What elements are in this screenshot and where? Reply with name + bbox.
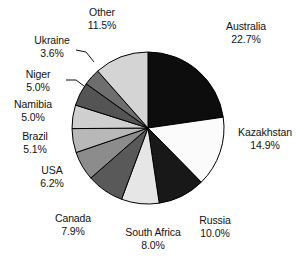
pie-slice-australia <box>148 52 223 128</box>
pie-label-canada: Canada 7.9% <box>42 212 104 237</box>
pie-label-kazakhstan-value: 14.9% <box>226 139 302 152</box>
pie-label-usa-value: 6.2% <box>26 177 78 190</box>
pie-label-niger-value: 5.0% <box>10 81 66 94</box>
pie-label-brazil-name: Brazil <box>6 130 64 143</box>
pie-label-australia-value: 22.7% <box>206 33 286 46</box>
leader-line-niger <box>66 80 84 86</box>
pie-label-south-africa-value: 8.0% <box>110 239 196 252</box>
pie-label-usa: USA 6.2% <box>26 164 78 189</box>
pie-label-niger-name: Niger <box>10 68 66 81</box>
pie-label-other-value: 11.5% <box>72 19 132 32</box>
pie-label-other: Other 11.5% <box>72 6 132 31</box>
pie-label-niger: Niger 5.0% <box>10 68 66 93</box>
pie-label-south-africa: South Africa 8.0% <box>110 226 196 251</box>
pie-label-canada-name: Canada <box>42 212 104 225</box>
pie-label-ukraine: Ukraine 3.6% <box>18 34 86 59</box>
pie-label-australia: Australia 22.7% <box>206 20 286 45</box>
pie-label-other-name: Other <box>72 6 132 19</box>
pie-label-usa-name: USA <box>26 164 78 177</box>
pie-slice-group <box>72 52 224 204</box>
pie-label-kazakhstan-name: Kazakhstan <box>226 126 302 139</box>
pie-label-kazakhstan: Kazakhstan 14.9% <box>226 126 302 151</box>
pie-label-south-africa-name: South Africa <box>110 226 196 239</box>
pie-label-namibia: Namibia 5.0% <box>0 98 66 123</box>
pie-label-ukraine-value: 3.6% <box>18 47 86 60</box>
pie-label-ukraine-name: Ukraine <box>18 34 86 47</box>
pie-label-russia-name: Russia <box>184 214 246 227</box>
pie-label-namibia-value: 5.0% <box>0 111 66 124</box>
pie-label-brazil: Brazil 5.1% <box>6 130 64 155</box>
pie-label-brazil-value: 5.1% <box>6 143 64 156</box>
pie-label-namibia-name: Namibia <box>0 98 66 111</box>
pie-chart-figure: Australia 22.7% Kazakhstan 14.9% Russia … <box>0 0 302 263</box>
pie-label-australia-name: Australia <box>206 20 286 33</box>
pie-label-canada-value: 7.9% <box>42 225 104 238</box>
